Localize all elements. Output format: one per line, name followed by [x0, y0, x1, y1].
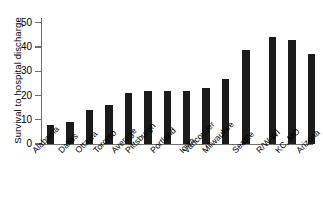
y-tick-label: 40 [0, 42, 32, 52]
y-tick-label: 0 [0, 139, 32, 149]
x-axis-labels: AlabamaDallasOttawaTorontoAveragePittsbu… [41, 146, 313, 207]
y-axis-title: Survival to hospital discharge [12, 6, 23, 156]
y-tick-label: 10 [0, 115, 32, 125]
bar-chart: Survival to hospital discharge 010203040… [0, 0, 323, 207]
bar-series [41, 18, 313, 144]
y-tick-label: 50 [0, 18, 32, 28]
y-tick-label: 20 [0, 91, 32, 101]
y-tick-label: 30 [0, 66, 32, 76]
